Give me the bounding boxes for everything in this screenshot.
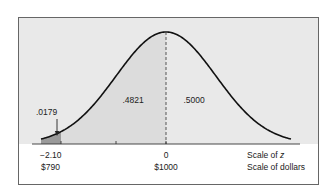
annotation-middle-left-area: .4821 (123, 95, 145, 105)
tick-label-z-neg2-10: −2.10 (40, 150, 62, 160)
tick-label-dollars-790: $790 (41, 162, 60, 172)
axis-label-scale-of-z: Scale of z (247, 150, 285, 160)
normal-distribution-chart: .0179 .4821 .5000 −2.10 0 $790 $1000 Sca… (0, 0, 333, 192)
annotation-left-tail-area: .0179 (36, 107, 58, 117)
tick-label-z-0: 0 (164, 150, 169, 160)
axis-label-scale-of-dollars: Scale of dollars (247, 162, 305, 172)
plot-background (19, 18, 318, 144)
tick-label-dollars-1000: $1000 (154, 162, 178, 172)
annotation-right-half-area: .5000 (184, 95, 206, 105)
